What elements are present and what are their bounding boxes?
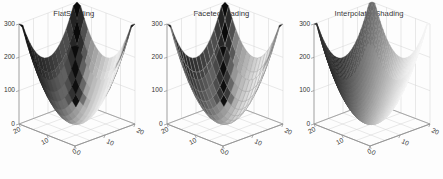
axes-3d: 30020010000102001020 [312, 24, 436, 163]
z-tick-label: 0 [288, 121, 310, 128]
z-tick-label: 100 [0, 87, 15, 94]
z-tick-label: 100 [288, 87, 310, 94]
z-tick-label: 200 [141, 54, 163, 61]
z-tick-label: 200 [288, 54, 310, 61]
z-tick-label: 100 [141, 87, 163, 94]
z-tick-label: 300 [288, 21, 310, 28]
figure-canvas: FlatShading30020010000102001020FacetedSh… [0, 0, 443, 179]
surface-plot-panel: InterpolatedShading30020010000102001020 [295, 0, 443, 179]
z-tick-label: 0 [0, 121, 15, 128]
z-tick-label: 200 [0, 54, 15, 61]
z-tick-label: 0 [141, 121, 163, 128]
surface-plot-panel: FlatShading30020010000102001020 [0, 0, 148, 179]
z-tick-label: 300 [0, 21, 15, 28]
axes-3d: 30020010000102001020 [165, 24, 289, 163]
z-tick-label: 300 [141, 21, 163, 28]
surface-plot-panel: FacetedShading30020010000102001020 [148, 0, 296, 179]
axes-3d: 30020010000102001020 [17, 24, 141, 163]
